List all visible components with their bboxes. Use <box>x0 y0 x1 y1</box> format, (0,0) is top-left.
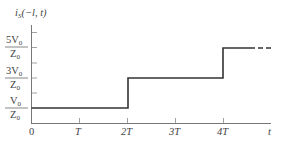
y-tick-label-V0-Z0: V0 Z0 <box>5 95 28 122</box>
y-ticks <box>32 33 38 94</box>
svg-text:V0: V0 <box>10 95 22 108</box>
y-axis-title: iS(−l, t) <box>15 7 47 20</box>
x-axis-label: t <box>268 126 272 137</box>
step-response-chart: iS(−l, t) 0 T 2T 3T 4T t 5V0 Z0 3V0 Z0 V… <box>0 0 285 149</box>
svg-text:Z0: Z0 <box>10 79 20 92</box>
x-tick-label-0: 0 <box>29 126 34 137</box>
y-tick-label-5V0-Z0: 5V0 Z0 <box>5 34 28 61</box>
x-ticks <box>80 118 224 124</box>
y-tick-label-3V0-Z0: 3V0 Z0 <box>5 65 28 92</box>
svg-text:Z0: Z0 <box>10 48 20 61</box>
svg-text:5V0: 5V0 <box>6 34 23 47</box>
x-tick-label-4T: 4T <box>217 126 229 137</box>
x-tick-label-T: T <box>75 126 82 137</box>
x-tick-label-2T: 2T <box>121 126 133 137</box>
svg-text:Z0: Z0 <box>10 109 20 122</box>
step-waveform-line <box>32 48 256 108</box>
x-tick-label-3T: 3T <box>168 126 181 137</box>
svg-text:3V0: 3V0 <box>6 65 23 78</box>
